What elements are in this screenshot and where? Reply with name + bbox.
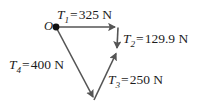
vector-t3-symbol: T xyxy=(108,72,116,87)
vector-t1-symbol: T xyxy=(57,7,65,22)
vector-t2-unit: N xyxy=(178,31,188,46)
origin-label: O xyxy=(44,20,53,33)
vector-t1-label: T1=325 N xyxy=(57,8,112,25)
vector-t4-symbol: T xyxy=(9,57,17,72)
vector-t3-unit: N xyxy=(153,72,163,87)
vector-t2-symbol: T xyxy=(123,31,131,46)
vector-t4-unit: N xyxy=(54,57,64,72)
vector-t1-value: 325 xyxy=(79,7,99,22)
vector-t2-arrow xyxy=(117,28,118,49)
vector-t3-label: T3=250 N xyxy=(108,73,163,90)
force-vector-diagram: O T1=325 N T2=129.9 N T3=250 N T4=400 N xyxy=(0,0,208,111)
vector-t2-label: T2=129.9 N xyxy=(123,32,188,49)
vector-t4-label: T4=400 N xyxy=(9,58,64,75)
vector-t3-equals: = xyxy=(120,72,130,87)
vector-t2-value: 129.9 xyxy=(145,31,175,46)
vector-t4-equals: = xyxy=(21,57,31,72)
vector-t3-value: 250 xyxy=(130,72,150,87)
vector-t2-equals: = xyxy=(135,31,145,46)
vector-t4-value: 400 xyxy=(31,57,51,72)
vector-t1-equals: = xyxy=(69,7,79,22)
vector-t1-unit: N xyxy=(102,7,112,22)
